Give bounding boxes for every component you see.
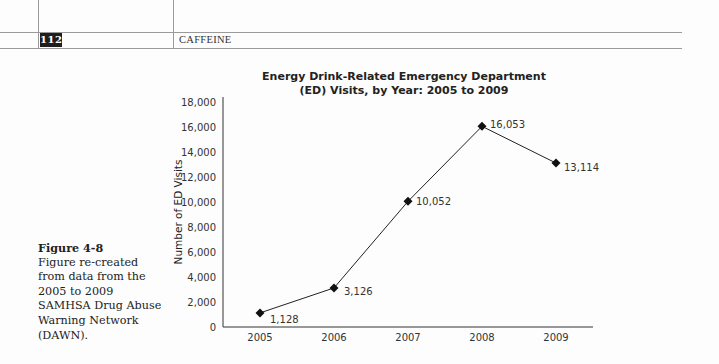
x-tick-label: 2005 xyxy=(247,332,272,343)
y-axis-ticks: 18,00016,00014,00012,00010,0008,0006,000… xyxy=(181,97,216,333)
data-point-marker-diamond xyxy=(256,308,265,317)
y-tick-label: 4,000 xyxy=(187,272,216,283)
line-chart: Energy Drink-Related Emergency Departmen… xyxy=(0,0,719,364)
chart-title-line2: (ED) Visits, by Year: 2005 to 2009 xyxy=(300,84,509,97)
y-tick-label: 8,000 xyxy=(187,222,216,233)
x-tick-label: 2007 xyxy=(395,332,420,343)
data-point-label: 3,126 xyxy=(344,286,373,297)
x-tick-label: 2008 xyxy=(469,332,494,343)
x-tick-label: 2006 xyxy=(321,332,346,343)
y-tick-label: 18,000 xyxy=(181,97,216,108)
y-tick-label: 10,000 xyxy=(181,197,216,208)
y-tick-label: 0 xyxy=(210,322,216,333)
x-tick-label: 2009 xyxy=(543,332,568,343)
chart-title-line1: Energy Drink-Related Emergency Departmen… xyxy=(262,70,546,83)
data-labels: 1,1283,12610,05216,05313,114 xyxy=(270,119,599,325)
data-point-label: 10,052 xyxy=(416,196,451,207)
data-point-marker-diamond xyxy=(552,159,561,168)
data-point-label: 1,128 xyxy=(270,314,299,325)
data-point-label: 13,114 xyxy=(564,162,599,173)
data-markers xyxy=(256,122,561,318)
y-tick-label: 6,000 xyxy=(187,247,216,258)
y-tick-label: 2,000 xyxy=(187,297,216,308)
data-point-label: 16,053 xyxy=(490,119,525,130)
y-tick-label: 16,000 xyxy=(181,122,216,133)
y-tick-label: 12,000 xyxy=(181,172,216,183)
x-axis-ticks: 20052006200720082009 xyxy=(247,332,568,343)
y-tick-label: 14,000 xyxy=(181,147,216,158)
series-line xyxy=(260,126,556,313)
